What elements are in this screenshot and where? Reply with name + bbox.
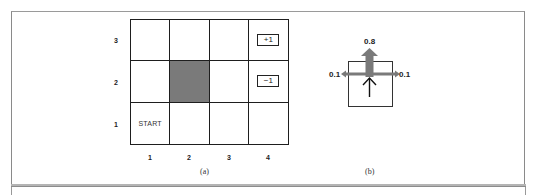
- reward-minus-one: −1: [257, 75, 279, 87]
- cell-3-3: [210, 20, 249, 61]
- cell-2-1: [170, 103, 209, 144]
- col-label-2: 2: [184, 154, 194, 161]
- cell-2-3: [170, 20, 209, 61]
- col-label-3: 3: [224, 154, 234, 161]
- caption-a: (a): [200, 167, 209, 176]
- cell-1-2: [131, 61, 170, 102]
- row-label-1: 1: [111, 121, 121, 128]
- cell-4-1: [249, 103, 288, 144]
- cell-3-2: [210, 61, 249, 102]
- start-label: START: [131, 120, 169, 127]
- gridworld: +1 −1 START: [130, 19, 289, 145]
- col-label-1: 1: [145, 154, 155, 161]
- cell-1-1: START: [131, 103, 170, 144]
- prob-right: 0.1: [399, 70, 410, 79]
- cell-1-3: [131, 20, 170, 61]
- bottom-divider: [11, 184, 526, 187]
- row-label-3: 3: [111, 37, 121, 44]
- cell-3-1: [210, 103, 249, 144]
- prob-left: 0.1: [329, 70, 340, 79]
- intended-direction-arrow-icon: [363, 78, 376, 97]
- transition-model-diagram: [330, 36, 430, 116]
- reward-plus-one: +1: [257, 34, 279, 46]
- frame-edge-right: [525, 187, 526, 195]
- row-label-2: 2: [111, 79, 121, 86]
- prob-forward: 0.8: [364, 37, 375, 46]
- frame-edge-left: [11, 187, 12, 195]
- wall-cell: [170, 61, 209, 102]
- cell-4-2: −1: [249, 61, 288, 102]
- cell-4-3: +1: [249, 20, 288, 61]
- caption-b: (b): [365, 167, 374, 176]
- col-label-4: 4: [263, 154, 273, 161]
